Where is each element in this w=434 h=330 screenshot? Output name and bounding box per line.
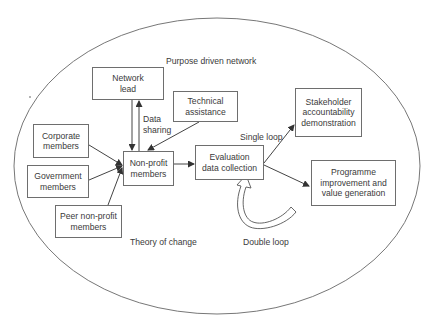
node-stakeholder-accountability: Stakeholder accountability demonstration — [295, 88, 362, 137]
node-text: members — [43, 141, 79, 152]
node-technical-assistance: Technical assistance — [173, 91, 238, 122]
theory-of-change-label: Theory of change — [130, 237, 197, 248]
node-text: Peer non-profit — [60, 211, 117, 222]
node-corporate-members: Corporate members — [33, 124, 89, 158]
single-loop-label: Single loop — [240, 132, 283, 143]
data-sharing-line-2: sharing — [143, 125, 171, 136]
node-peer-nonprofit-members: Peer non-profit members — [55, 205, 122, 238]
data-sharing-label: Data sharing — [143, 114, 171, 136]
node-text: Government — [34, 171, 81, 182]
node-text: accountability — [302, 107, 354, 118]
data-sharing-line-1: Data — [143, 114, 171, 125]
arrow-evaluation-to-stakeholder — [264, 125, 294, 163]
node-programme-improvement: Programme improvement and value generati… — [311, 160, 396, 206]
node-text: lead — [120, 84, 136, 95]
node-text: Evaluation — [209, 152, 249, 163]
node-text: Programme — [331, 167, 376, 178]
purpose-network-label: Purpose driven network — [166, 56, 256, 67]
arrow-corporate-to-nonprofit — [89, 145, 122, 165]
node-text: members — [131, 169, 167, 180]
node-nonprofit-members: Non-profit members — [123, 151, 174, 186]
arrow-evaluation-to-programme — [264, 165, 309, 186]
node-text: assistance — [185, 107, 226, 118]
node-network-lead: Network lead — [92, 67, 164, 100]
node-government-members: Government members — [27, 165, 89, 198]
node-text: members — [40, 182, 76, 193]
node-text: Technical — [188, 96, 224, 107]
node-text: value generation — [322, 188, 386, 199]
node-text: members — [71, 222, 107, 233]
arrow-government-to-nonprofit — [89, 166, 122, 180]
node-text: Non-profit — [130, 158, 168, 169]
node-text: data collection — [202, 163, 257, 174]
stray-dot — [29, 96, 31, 98]
node-evaluation-data-collection: Evaluation data collection — [195, 145, 264, 180]
double-loop-arrow — [237, 175, 296, 229]
node-text: demonstration — [301, 118, 355, 129]
node-text: Corporate — [42, 131, 80, 142]
node-text: improvement and — [320, 178, 386, 189]
arrow-peer-to-nonprofit — [108, 168, 122, 205]
node-text: Stakeholder — [306, 97, 352, 108]
node-text: Network — [112, 73, 144, 84]
double-loop-label: Double loop — [243, 237, 289, 248]
